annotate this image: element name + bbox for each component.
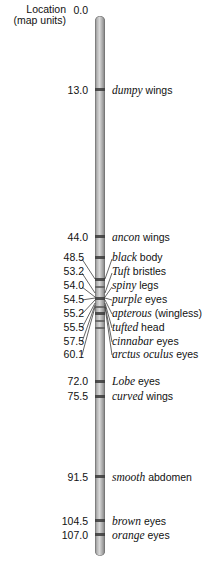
gene-name: dumpy [112,84,143,96]
location-value: 107.0 [62,529,88,541]
gene-label: orange eyes [112,529,170,541]
location-value: 60.1 [64,348,84,360]
gene-name: ancon [112,231,140,243]
gene-label: ancon wings [112,231,170,243]
gene-label: dumpy wings [112,84,172,96]
gene-name: tufted [112,321,138,333]
gene-name: black [112,251,137,263]
location-value: 72.0 [68,375,88,387]
gene-label: arctus oculus eyes [112,348,198,360]
gene-name: orange [112,529,145,541]
gene-name: cinnabar [112,335,154,347]
gene-name: Tuft [112,265,130,277]
trait: head [138,321,164,333]
gene-name: curved [112,390,143,402]
gene-name: spiny [112,279,136,291]
location-value: 55.2 [64,307,84,319]
gene-label: apterous (wingless) [112,307,202,319]
location-value: 44.0 [68,231,88,243]
gene-label: tufted head [112,321,164,333]
location-value: 104.5 [62,515,88,527]
gene-name: arctus oculus [112,348,173,360]
trait: legs [136,279,158,291]
location-value: 13.0 [68,84,88,96]
location-value: 54.5 [64,293,84,305]
location-value: 54.0 [64,279,84,291]
trait: body [137,251,163,263]
location-value: 57.5 [64,335,84,347]
trait: eyes [173,348,198,360]
trait: wings [140,231,170,243]
gene-label: Tuft bristles [112,265,166,277]
gene-label: brown eyes [112,515,166,527]
gene-label: curved wings [112,390,173,402]
trait: eyes [135,375,160,387]
gene-label: spiny legs [112,279,158,291]
gene-name: purple [112,293,142,305]
trait: (wingless) [152,307,202,319]
trait: eyes [141,515,166,527]
gene-label: cinnabar eyes [112,335,179,347]
gene-name: Lobe [112,375,135,387]
location-value: 91.5 [68,471,88,483]
gene-label: purple eyes [112,293,167,305]
trait: eyes [142,293,167,305]
trait: eyes [145,529,170,541]
trait: bristles [130,265,166,277]
trait: wings [143,84,173,96]
location-value: 75.5 [68,390,88,402]
gene-label: smooth abdomen [112,471,192,483]
gene-label: black body [112,251,163,263]
location-value: 55.5 [64,321,84,333]
trait: eyes [154,335,179,347]
gene-name: brown [112,515,141,527]
location-value: 53.2 [64,265,84,277]
gene-label: Lobe eyes [112,375,160,387]
gene-name: apterous [112,307,152,319]
location-value: 48.5 [64,251,84,263]
gene-name: smooth [112,471,145,483]
trait: wings [143,390,173,402]
trait: abdomen [145,471,192,483]
